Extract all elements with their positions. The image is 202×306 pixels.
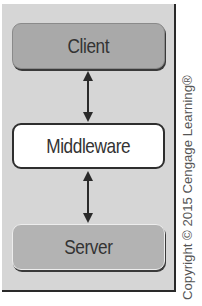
server-node: Server — [12, 224, 165, 270]
middleware-node: Middleware — [12, 123, 165, 169]
client-node: Client — [12, 23, 165, 69]
copyright-notice: Copyright © 2015 Cengage Learning® — [180, 75, 195, 300]
bidirectional-arrow-icon — [81, 170, 95, 224]
client-label: Client — [68, 34, 110, 58]
bidirectional-arrow-icon — [81, 70, 95, 123]
server-label: Server — [64, 235, 112, 259]
middleware-label: Middleware — [47, 134, 131, 158]
